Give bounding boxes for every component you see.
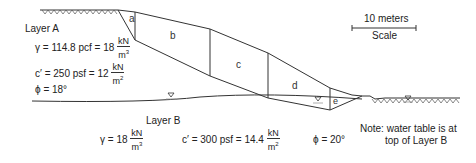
slice-label-c: c <box>236 59 241 70</box>
layer-a-phi: ϕ = 18° <box>35 84 67 95</box>
unit-fraction: kNm3 <box>130 128 143 152</box>
scale-length: 10 meters <box>364 13 408 24</box>
ground-hatch-crest <box>40 10 118 14</box>
layer-a-title: Layer A <box>25 23 59 34</box>
layer-b-cohesion-value: c′ = 300 psf = 14.4 <box>182 134 264 145</box>
layer-a-cohesion-value: c′ = 250 psf = 12 <box>35 68 109 79</box>
layer-b-gamma-value: γ = 18 <box>100 134 128 145</box>
layer-b-phi: ϕ = 20° <box>313 134 345 145</box>
slice-label-e: e <box>333 96 338 106</box>
water-table-icon <box>166 93 176 99</box>
layer-b-gamma: γ = 18 kNm3 <box>100 128 143 152</box>
scale-label: Scale <box>372 30 397 41</box>
layer-b-cohesion: c′ = 300 psf = 14.4 kNm2 <box>182 128 280 152</box>
layer-a-gamma-value: γ = 114.8 pcf = 18 <box>35 42 114 53</box>
layer-a-gamma: γ = 114.8 pcf = 18 kNm3 <box>35 36 130 60</box>
ground-surface <box>118 10 362 96</box>
unit-fraction: kNm3 <box>117 36 130 60</box>
unit-fraction: kNm2 <box>111 62 124 86</box>
note-line-2: top of Layer B <box>385 135 447 146</box>
slice-label-a: a <box>129 13 135 24</box>
layer-b-boundary <box>32 95 362 102</box>
slice-label-b: b <box>170 30 176 41</box>
unit-fraction: kNm2 <box>267 128 280 152</box>
slice-label-d: d <box>292 80 298 91</box>
note-line-1: Note: water table is at <box>360 123 457 134</box>
layer-a-cohesion: c′ = 250 psf = 12 kNm2 <box>35 62 124 86</box>
layer-b-title: Layer B <box>146 115 180 126</box>
water-table-icon <box>313 97 323 103</box>
